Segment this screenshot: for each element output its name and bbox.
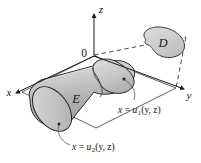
origin-label: 0: [81, 47, 87, 59]
solid-label-E: E: [71, 92, 80, 106]
projection-label-D: D: [157, 36, 167, 50]
figure-canvas: D E: [0, 0, 201, 163]
projection-region-D: D: [144, 27, 185, 58]
u2-text-equals: =: [79, 142, 84, 152]
math-figure-type1-solid: D E: [0, 0, 201, 163]
u1-text-x: x: [117, 105, 123, 115]
solid-region-E: E: [24, 59, 134, 139]
y-axis-label: y: [186, 89, 192, 101]
u1-text-equals: =: [125, 105, 130, 115]
svg-text:x=u2(y, z): x=u2(y, z): [71, 142, 115, 153]
u2-text-args: (y, z): [95, 142, 114, 153]
u1-text-args: (y, z): [141, 105, 160, 116]
label-x-equals-u2: x=u2(y, z): [71, 142, 115, 153]
u2-text-x: x: [71, 142, 77, 152]
x-axis-label: x: [6, 86, 12, 98]
z-axis-label: z: [98, 3, 104, 15]
